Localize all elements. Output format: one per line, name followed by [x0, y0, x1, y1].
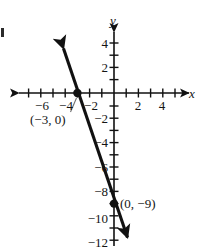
y-tick-label--8: −8 — [84, 185, 108, 198]
y-axis-label: y — [110, 14, 116, 27]
x-tick-label--4: −4 — [59, 99, 73, 112]
point-y-intercept — [110, 199, 118, 207]
y-tick-label--12: −12 — [78, 236, 108, 249]
x-tick-label-2: 2 — [135, 99, 142, 112]
y-tick-label-2: 2 — [90, 61, 108, 74]
point-x-intercept — [73, 89, 81, 97]
y-axis — [110, 32, 119, 246]
y-tick-label-4: 4 — [90, 37, 108, 50]
y-tick-label--10: −10 — [78, 212, 108, 225]
x-axis-label: x — [189, 87, 195, 100]
x-tick-label-4: 4 — [159, 99, 166, 112]
annotation-x-intercept: (−3, 0) — [30, 113, 66, 126]
x-tick-label--6: −6 — [35, 99, 49, 112]
x-axis — [19, 89, 189, 98]
annotation-y-intercept: (0, −9) — [120, 197, 156, 210]
y-tick-label--6: −6 — [84, 161, 108, 174]
y-tick-label--4: −4 — [84, 136, 108, 149]
y-tick-label--2: −2 — [84, 112, 108, 125]
